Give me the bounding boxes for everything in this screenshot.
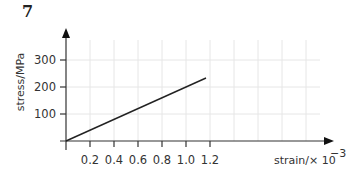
svg-text:1.0: 1.0	[177, 153, 195, 167]
svg-text:0.6: 0.6	[129, 153, 147, 167]
svg-text:300: 300	[34, 53, 56, 67]
svg-text:100: 100	[34, 107, 56, 121]
stress-strain-chart: 300 200 100 0.2 0.4 0.6 0.8 1.0 1.2 stre…	[0, 0, 347, 171]
svg-text:200: 200	[34, 80, 56, 94]
y-axis-label: stress/MPa	[14, 53, 27, 112]
grid	[66, 40, 320, 141]
svg-text:0.8: 0.8	[153, 153, 171, 167]
x-tick-labels: 0.2 0.4 0.6 0.8 1.0 1.2	[81, 153, 219, 167]
x-axis-label-exponent: −3	[330, 147, 346, 160]
axes	[60, 28, 334, 150]
svg-text:0.2: 0.2	[81, 153, 99, 167]
y-tick-labels: 300 200 100	[34, 53, 56, 121]
svg-text:1.2: 1.2	[201, 153, 219, 167]
x-axis-arrow-icon	[324, 137, 334, 145]
y-axis-arrow-icon	[62, 28, 70, 38]
x-axis-label: strain/× 10	[274, 154, 336, 167]
svg-text:0.4: 0.4	[105, 153, 123, 167]
